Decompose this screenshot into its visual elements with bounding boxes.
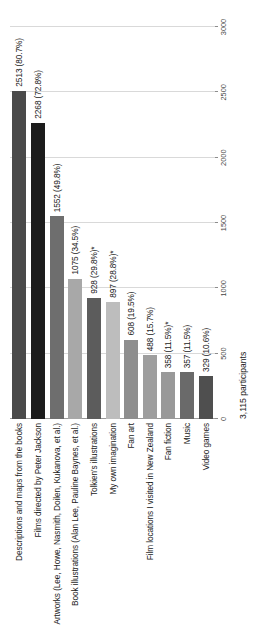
- category-label: Fan art: [124, 423, 138, 449]
- category-label: Book illustrations (Alan Lee, Pauline Ba…: [68, 423, 82, 606]
- bar-value-label: 928 (29.8%)*: [87, 247, 101, 294]
- bar-value-label: 329 (10.6%): [199, 328, 213, 372]
- bar[interactable]: [199, 376, 213, 419]
- bar-value-label: 488 (15.7%): [143, 307, 157, 351]
- bar[interactable]: [31, 123, 45, 419]
- bar-row: 1552 (49.8%): [50, 27, 64, 419]
- x-tick: [215, 157, 218, 158]
- plot-area: 2513 (80.7%)2268 (72.8%)1552 (49.8%)1075…: [10, 27, 215, 419]
- x-tick-label: 1500: [219, 215, 228, 231]
- x-tick-label: 0: [219, 417, 228, 421]
- bar[interactable]: [124, 340, 138, 419]
- bar-value-label: 358 (11.5%)*: [161, 322, 175, 369]
- bar-row: 1075 (34.5%): [68, 27, 82, 419]
- category-label: Fan fiction: [161, 423, 175, 460]
- category-label: Artworks (Lee, Howe, Nasmith, Doilen, Ku…: [50, 423, 64, 625]
- category-label: My own imagination: [106, 423, 120, 495]
- category-label: Music: [180, 423, 194, 444]
- x-tick-label: 3000: [219, 19, 228, 35]
- x-tick: [215, 26, 218, 27]
- x-tick: [215, 287, 218, 288]
- bar[interactable]: [180, 372, 194, 419]
- bar[interactable]: [161, 372, 175, 419]
- category-label: Films directed by Peter Jackson: [31, 423, 45, 537]
- category-label-column: Descriptions and maps from the booksFilm…: [10, 423, 215, 571]
- bar[interactable]: [50, 216, 64, 419]
- x-tick-label: 2500: [219, 84, 228, 100]
- x-tick: [215, 91, 218, 92]
- bar-row: 358 (11.5%)*: [161, 27, 175, 419]
- bar-row: 928 (29.8%)*: [87, 27, 101, 419]
- bar-row: 329 (10.6%): [199, 27, 213, 419]
- bar[interactable]: [12, 91, 26, 419]
- bar-value-label: 2268 (72.8%): [31, 70, 45, 119]
- x-tick: [215, 353, 218, 354]
- bar-row: 357 (11.5%): [180, 27, 194, 419]
- x-tick: [215, 222, 218, 223]
- bar-value-label: 1552 (49.8%): [50, 164, 64, 213]
- bar-value-label: 1075 (34.5%): [68, 226, 82, 275]
- category-label: Tolkien's illustrations: [87, 423, 101, 496]
- bar-row: 488 (15.7%): [143, 27, 157, 419]
- x-tick-label: 500: [219, 348, 228, 360]
- bar[interactable]: [106, 302, 120, 419]
- bar-value-label: 357 (11.5%): [180, 325, 194, 368]
- category-label: Film locations I visited in New Zealand: [143, 423, 157, 560]
- bar-row: 897 (28.8%)*: [106, 27, 120, 419]
- bar-value-label: 2513 (80.7%): [12, 38, 26, 87]
- x-tick-label: 1000: [219, 280, 228, 296]
- category-label: Descriptions and maps from the books: [12, 423, 26, 561]
- bar-row: 608 (19.5%): [124, 27, 138, 419]
- category-label: Video games: [199, 423, 213, 470]
- bar[interactable]: [68, 279, 82, 419]
- x-axis: 050010001500200025003000: [215, 27, 235, 419]
- bar-row: 2513 (80.7%): [12, 27, 26, 419]
- participants-caption: 3,115 participants: [238, 352, 248, 419]
- bar[interactable]: [87, 298, 101, 419]
- bar-value-label: 897 (28.8%)*: [106, 251, 120, 298]
- bar[interactable]: [143, 355, 157, 419]
- x-tick: [215, 418, 218, 419]
- x-tick-label: 2000: [219, 149, 228, 165]
- bar-value-label: 608 (19.5%): [124, 291, 138, 335]
- bar-row: 2268 (72.8%): [31, 27, 45, 419]
